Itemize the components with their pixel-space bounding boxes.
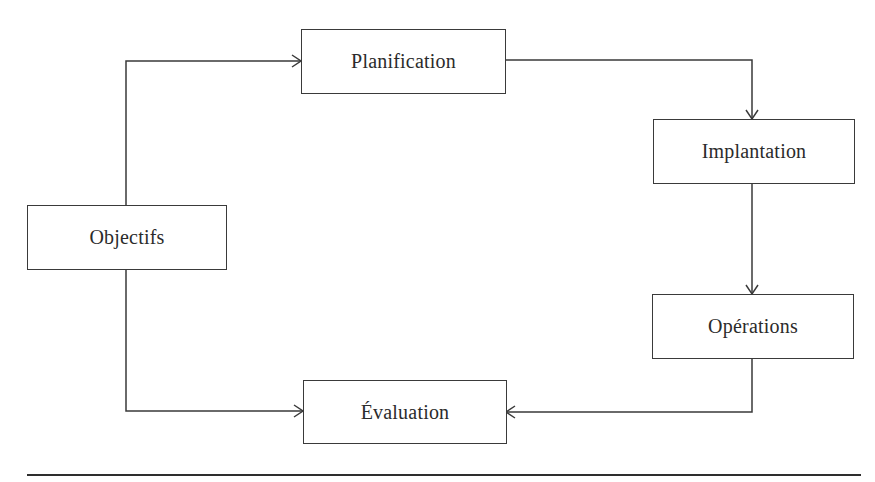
- edge-objectifs-evaluation: [126, 269, 303, 411]
- node-planification: Planification: [301, 29, 506, 94]
- edge-operations-evaluation: [506, 358, 752, 412]
- node-operations: Opérations: [652, 294, 854, 359]
- edge-planification-implantation: [505, 60, 752, 119]
- horizontal-rule: [27, 474, 861, 476]
- edge-objectifs-planification: [126, 61, 301, 205]
- node-implantation: Implantation: [653, 119, 855, 184]
- node-objectifs: Objectifs: [27, 205, 227, 270]
- node-evaluation: Évaluation: [303, 380, 507, 444]
